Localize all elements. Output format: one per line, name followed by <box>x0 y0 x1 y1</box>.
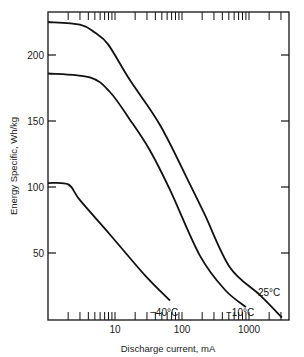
y-tick-label: 50 <box>33 248 45 259</box>
x-tick-label: 1000 <box>238 324 261 335</box>
y-tick-label: 200 <box>27 50 44 61</box>
curve-25c <box>48 22 282 318</box>
plot-frame <box>48 12 289 320</box>
x-axis-title: Discharge current, mA <box>121 343 216 354</box>
y-tick-label: 150 <box>27 116 44 127</box>
x-tick-label: 100 <box>174 324 191 335</box>
curve-label: 25°C <box>258 287 280 298</box>
curves <box>48 22 282 318</box>
y-axis-title: Energy Specific, Wh/kg <box>8 117 19 215</box>
chart: 101001000 50100150200 25°C−10°C−40°C Dis… <box>0 0 304 357</box>
curve-minus10c <box>48 74 246 308</box>
curve-minus40c <box>48 183 170 301</box>
y-axis-ticks: 50100150200 <box>27 50 289 259</box>
curve-label: −10°C <box>226 307 254 318</box>
curve-label: −40°C <box>150 307 178 318</box>
y-tick-label: 100 <box>27 182 44 193</box>
x-tick-label: 10 <box>109 324 121 335</box>
curve-labels: 25°C−10°C−40°C <box>150 287 280 318</box>
